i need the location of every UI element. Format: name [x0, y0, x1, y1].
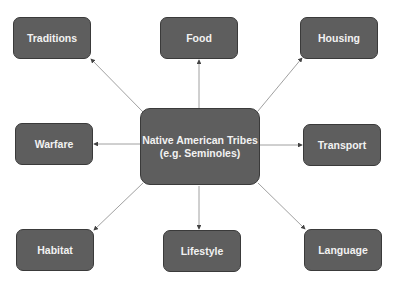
node-label: Language [318, 244, 368, 256]
edge-language [258, 183, 305, 229]
node-food: Food [160, 17, 238, 59]
node-label: Food [186, 32, 212, 44]
node-label: Traditions [27, 32, 77, 44]
edge-traditions [91, 59, 143, 112]
edge-habitat [94, 183, 143, 230]
node-language: Language [304, 229, 382, 271]
node-label: Warfare [35, 138, 74, 150]
node-transport: Transport [303, 124, 381, 166]
node-traditions: Traditions [13, 17, 91, 59]
center-label-line2: (e.g. Seminoles) [160, 147, 241, 160]
node-center: Native American Tribes (e.g. Seminoles) [140, 108, 260, 185]
node-label: Habitat [37, 244, 73, 256]
node-label: Transport [318, 139, 366, 151]
node-habitat: Habitat [16, 229, 94, 271]
center-label-line1: Native American Tribes [142, 134, 258, 147]
node-housing: Housing [300, 17, 378, 59]
node-lifestyle: Lifestyle [163, 230, 241, 272]
edge-housing [258, 58, 302, 111]
node-label: Housing [318, 32, 360, 44]
node-warfare: Warfare [15, 123, 93, 165]
node-label: Lifestyle [181, 245, 224, 257]
